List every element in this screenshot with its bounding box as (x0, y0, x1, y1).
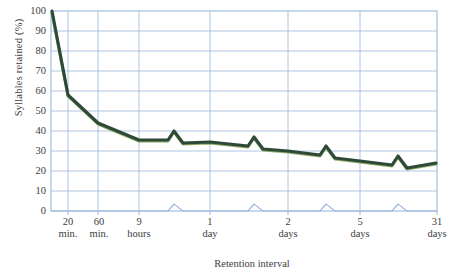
x-tick-label-31-days: 31 days (427, 216, 446, 239)
x-tick-line1: 20 (63, 216, 74, 227)
x-tick-line1: 60 (94, 216, 105, 227)
x-tick-line2: day (202, 228, 217, 240)
x-axis-title: Retention interval (0, 258, 460, 269)
x-tick-line1: 31 (432, 216, 443, 227)
x-tick-label-1-day: 1 day (202, 216, 217, 239)
x-tick-line1: 2 (285, 216, 290, 227)
x-tick-label-60-min: 60 min. (90, 216, 109, 239)
x-axis-with-breaks (51, 204, 437, 211)
x-tick-line1: 1 (207, 216, 212, 227)
x-tick-line1: 5 (357, 216, 362, 227)
data-line (52, 11, 436, 168)
x-tick-line2: min. (59, 228, 78, 240)
x-tick-line2: min. (90, 228, 109, 240)
x-tick-line2: hours (127, 228, 150, 240)
forgetting-curve-chart: Syllables retained (%) 100 90 80 70 60 5… (0, 0, 460, 280)
x-tick-line2: days (350, 228, 369, 240)
x-tick-label-20-min: 20 min. (59, 216, 78, 239)
x-tick-label-9-hours: 9 hours (127, 216, 150, 239)
x-tick-label-5-days: 5 days (350, 216, 369, 239)
x-tick-label-2-days: 2 days (278, 216, 297, 239)
x-tick-line2: days (278, 228, 297, 240)
x-axis-title-text: Retention interval (214, 258, 290, 269)
horizontal-gridlines (51, 31, 437, 191)
axis-break-marks (168, 204, 398, 211)
x-tick-line2: days (427, 228, 446, 240)
x-tick-line1: 9 (136, 216, 141, 227)
